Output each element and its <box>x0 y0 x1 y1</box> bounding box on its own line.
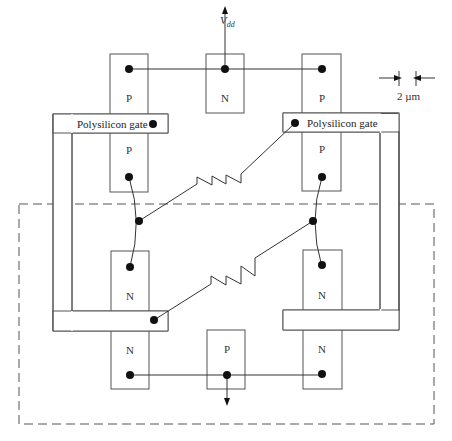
resistor-upper <box>139 123 295 221</box>
contact-dot <box>291 119 299 127</box>
node-dot <box>309 217 317 225</box>
diffusion-p-top-right <box>302 54 341 113</box>
node-dot <box>135 217 143 225</box>
diffusion-n-right-upper <box>303 250 342 310</box>
region-label: P <box>319 143 325 155</box>
contact-dot <box>125 65 133 73</box>
diffusion-n-bottom-left <box>111 331 149 389</box>
diffusion-p-right-lower <box>302 132 341 191</box>
resistor-lower <box>154 221 313 320</box>
region-label: N <box>318 289 326 301</box>
region-label: P <box>224 343 230 355</box>
region-label: P <box>126 92 132 104</box>
poly-gate-right-label: Polysilicon gate <box>307 117 378 129</box>
contact-dot <box>149 120 157 128</box>
diffusion-n-left-upper <box>111 251 149 311</box>
contact-dot <box>318 65 326 73</box>
contact-dot <box>126 371 134 379</box>
contact-dot <box>223 371 231 379</box>
contact-dot <box>125 173 133 181</box>
region-label: N <box>126 344 134 356</box>
scale-bar: 2 µm <box>379 71 435 102</box>
region-label: N <box>318 343 326 355</box>
contact-dot <box>318 370 326 378</box>
poly-gate-right-bar-bottom <box>283 310 399 330</box>
vdd-label: Vdd <box>220 14 236 29</box>
diffusion-p-bottom-center <box>207 330 245 389</box>
contact-dot <box>221 65 229 73</box>
region-label: P <box>319 92 325 104</box>
diffusion-p-left-lower <box>110 133 148 192</box>
contact-dot <box>318 173 326 181</box>
poly-gate-left-label: Polysilicon gate <box>77 118 148 130</box>
diffusion-p-top-left <box>110 54 148 114</box>
diffusion-n-bottom-right <box>303 330 342 389</box>
region-label: P <box>126 144 132 156</box>
region-label: N <box>221 92 229 104</box>
scale-bar-label: 2 µm <box>397 90 421 102</box>
contact-dot <box>126 263 134 271</box>
contact-dot <box>318 261 326 269</box>
region-label: N <box>126 290 134 302</box>
contact-dot <box>150 316 158 324</box>
layout-diagram: P N P P P N N N P N Polysilicon gate Pol… <box>0 0 452 441</box>
